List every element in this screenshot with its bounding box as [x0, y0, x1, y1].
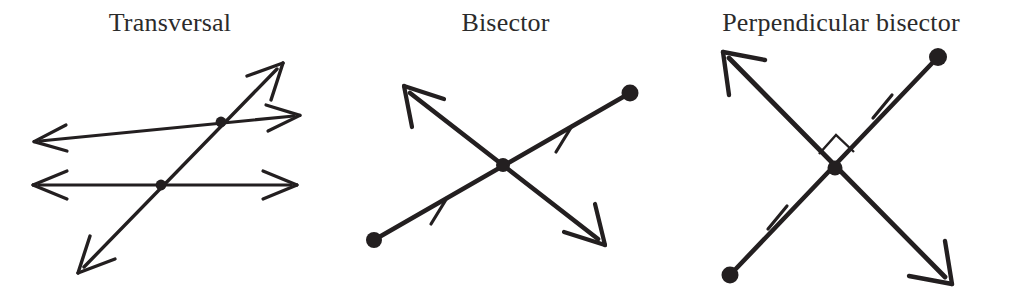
segment-endpoint-dot-upper-right	[622, 85, 639, 102]
midpoint-intersection-dot	[828, 161, 843, 176]
segment-endpoint-dot-lower-left	[366, 232, 382, 248]
geometry-figure: Transversal	[0, 0, 1011, 292]
midpoint-intersection-dot	[496, 158, 510, 172]
intersection-dot-lower	[156, 180, 167, 191]
panel-perpendicular-bisector: Perpendicular bisector	[671, 0, 1011, 292]
perpendicular-bisector-diagram	[671, 0, 1011, 292]
intersection-dot-upper	[216, 117, 227, 128]
transversal-diagram	[0, 0, 340, 292]
upper-parallel-line	[34, 105, 300, 151]
segment-endpoint-dot-lower-left	[722, 267, 739, 284]
panel-transversal: Transversal	[0, 0, 340, 292]
upper-parallel-line-shaft	[40, 116, 294, 141]
segment-endpoint-dot-upper-right	[929, 48, 947, 66]
panel-bisector: Bisector	[340, 0, 671, 292]
bisector-diagram	[340, 0, 671, 292]
transversal-line-shaft	[84, 69, 277, 267]
transversal-line	[78, 63, 283, 273]
